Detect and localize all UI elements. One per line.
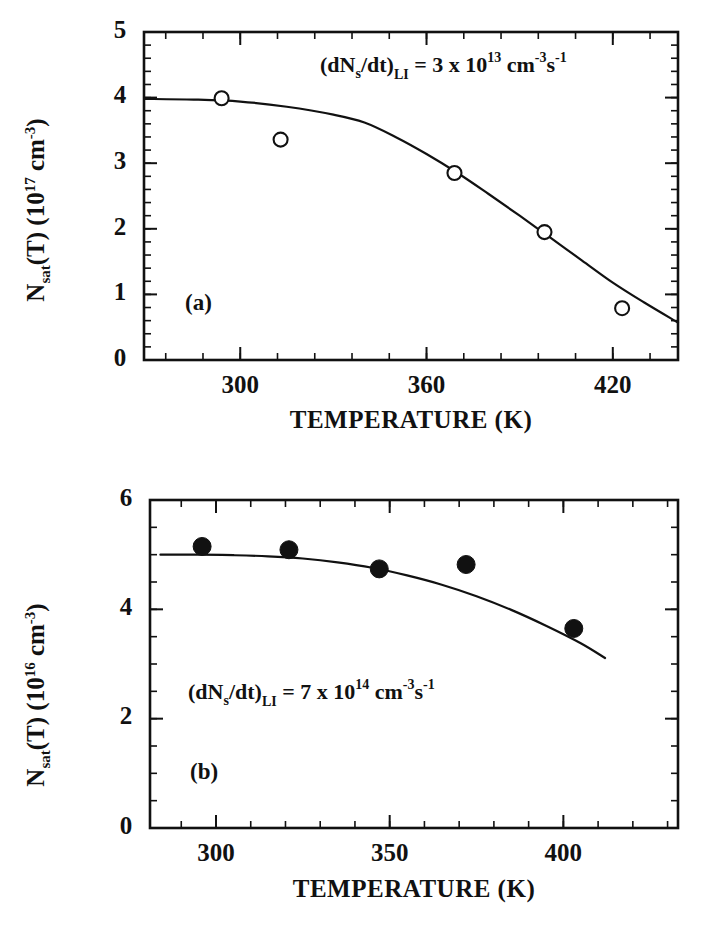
data-point [457, 556, 475, 574]
ylabel-b-main: N [22, 769, 49, 787]
panel-tag-a: (a) [185, 290, 212, 315]
data-point [615, 301, 629, 315]
annot-b-exp: 14 [355, 677, 369, 692]
annot-a-equals: = 3 x 10 [409, 52, 488, 77]
x-tick-label: 420 [594, 371, 632, 398]
y-tick-label: 2 [120, 702, 133, 729]
data-point [215, 91, 229, 105]
ylabel-a: Nsat(T) (1017 cm-3) [22, 118, 53, 301]
ylabel-a-close: ) [22, 118, 50, 126]
ylabel-b-exp: 16 [22, 662, 38, 678]
chart-svg-a: Nsat(T) (1017 cm-3) 012345 300360420 (a)… [0, 0, 706, 463]
ylabel-b-main-sub: sat [37, 750, 53, 768]
y-tick-label: 0 [114, 344, 127, 371]
data-point [538, 225, 552, 239]
ylabel-b: Nsat(T) (1016 cm-3) [22, 603, 53, 786]
svg-text:Nsat(T) (1016 cm-3): Nsat(T) (1016 cm-3) [22, 603, 53, 786]
y-tick-labels-a: 012345 [114, 16, 127, 371]
plot-frame-b [150, 500, 678, 828]
ylabel-b-tail: cm [22, 624, 49, 662]
ylabel-a-main: N [22, 284, 49, 302]
annot-b-prefix: (dN [188, 679, 224, 704]
annot-a-unit-cm-sup: -3 [535, 50, 547, 65]
fit-curve-a [144, 99, 678, 323]
x-tick-label: 300 [197, 839, 235, 866]
annot-b-unit-cm-sup: -3 [403, 677, 415, 692]
xlabel-a: TEMPERATURE (K) [290, 406, 532, 434]
x-tick-labels-a: 300360420 [221, 371, 631, 398]
annot-a-mid: /dt) [360, 52, 394, 77]
data-point [447, 166, 461, 180]
chart-svg-b: Nsat(T) (1016 cm-3) 0246 300350400 (b) (… [0, 463, 706, 926]
y-tick-label: 3 [114, 147, 127, 174]
panel-tag-b: (b) [190, 759, 218, 784]
y-tick-label: 1 [114, 278, 127, 305]
axis-ticks-b [150, 500, 678, 828]
annotation-a: (dNs/dt)LI = 3 x 1013 cm-3s-1 [320, 50, 567, 82]
ylabel-b-mid: (T) (10 [22, 677, 50, 750]
chart-panel-a: Nsat(T) (1017 cm-3) 012345 300360420 (a)… [0, 0, 706, 463]
ylabel-b-tail-sup: -3 [22, 612, 38, 625]
y-tick-label: 0 [120, 812, 133, 839]
ylabel-b-close: ) [22, 603, 50, 611]
annot-b-unit-cm: cm [369, 679, 403, 704]
ylabel-a-tail: cm [22, 139, 49, 177]
x-tick-label: 360 [408, 371, 446, 398]
plot-frame-a [144, 32, 678, 360]
x-tick-labels-b: 300350400 [197, 839, 582, 866]
ylabel-a-tail-sup: -3 [22, 127, 38, 140]
data-point [370, 560, 388, 578]
y-tick-label: 4 [120, 593, 133, 620]
ylabel-a-main-sub: sat [37, 265, 53, 283]
annot-b-equals: = 7 x 10 [277, 679, 356, 704]
ylabel-a-exp: 17 [22, 177, 38, 193]
annot-b-unit-s-sup: -1 [423, 677, 435, 692]
x-tick-label: 300 [221, 371, 259, 398]
annot-a-unit-cm: cm [501, 52, 535, 77]
x-tick-label: 400 [545, 839, 583, 866]
annot-a-unit-s-sup: -1 [555, 50, 567, 65]
y-tick-label: 2 [114, 213, 127, 240]
svg-text:Nsat(T) (1017 cm-3): Nsat(T) (1017 cm-3) [22, 118, 53, 301]
ylabel-a-mid: (T) (10 [22, 192, 50, 265]
annotation-b: (dNs/dt)LI = 7 x 1014 cm-3s-1 [188, 677, 435, 709]
x-tick-label: 350 [371, 839, 409, 866]
y-tick-label: 4 [114, 81, 127, 108]
data-point [280, 541, 298, 559]
axis-ticks-a [144, 32, 678, 360]
chart-panel-b: Nsat(T) (1016 cm-3) 0246 300350400 (b) (… [0, 463, 706, 926]
data-point [274, 133, 288, 147]
annot-b-mid: /dt) [228, 679, 262, 704]
figure-container: Nsat(T) (1017 cm-3) 012345 300360420 (a)… [0, 0, 706, 926]
data-point [193, 537, 211, 555]
data-points-b [193, 537, 583, 637]
y-tick-label: 5 [114, 16, 127, 43]
data-point [565, 619, 583, 637]
y-tick-label: 6 [120, 484, 133, 511]
annot-a-prefix: (dN [320, 52, 356, 77]
annot-a-mid-sub: LI [394, 67, 409, 82]
xlabel-b: TEMPERATURE (K) [293, 875, 535, 903]
data-points-a [215, 91, 630, 315]
annot-b-mid-sub: LI [262, 694, 277, 709]
annot-a-exp: 13 [487, 50, 501, 65]
y-tick-labels-b: 0246 [120, 484, 133, 839]
